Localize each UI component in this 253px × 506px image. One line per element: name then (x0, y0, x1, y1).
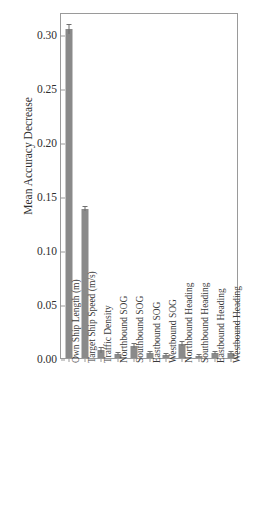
y-axis-label: Mean Accuracy Decrease (22, 76, 34, 236)
error-bar (117, 353, 118, 355)
error-bar-cap (67, 24, 72, 25)
bar-chart-figure: Mean Accuracy Decrease 0.000.050.100.150… (0, 0, 253, 506)
x-axis-labels: Own Ship Length (m)Target Ship Speed (m/… (60, 359, 238, 506)
error-bar (149, 352, 150, 354)
y-tick-label: 0.25 (37, 84, 61, 96)
error-bar (101, 348, 102, 352)
error-bar (182, 342, 183, 346)
y-tick-label: 0.15 (37, 192, 61, 204)
y-tick-label: 0.00 (37, 354, 61, 366)
error-bar-cap (83, 206, 88, 207)
y-tick-label: 0.10 (37, 246, 61, 258)
error-bar (198, 355, 199, 357)
y-tick-label: 0.05 (37, 300, 61, 312)
error-bar (69, 25, 70, 34)
error-bar (85, 207, 86, 211)
y-tick-label: 0.30 (37, 30, 61, 42)
y-tick-label: 0.20 (37, 138, 61, 150)
error-bar (166, 354, 167, 356)
